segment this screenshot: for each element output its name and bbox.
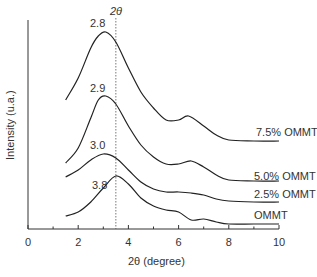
x-tick-labels: 0246810 [25, 236, 285, 248]
series-label-5.0: 5.0% OMMT [254, 170, 316, 182]
x-tick-label: 8 [226, 236, 232, 248]
x-tick-label: 0 [25, 236, 31, 248]
series-label-ommt: OMMT [254, 209, 288, 221]
x-tick-label: 4 [125, 236, 131, 248]
peak-label-ommt: 3.8 [92, 179, 107, 191]
peak-label-2.5: 3.0 [90, 139, 105, 151]
x-ticks [28, 225, 279, 229]
x-tick-label: 10 [273, 236, 285, 248]
reference-line-label: 2θ [109, 5, 122, 17]
peak-label-5.0: 2.9 [90, 82, 105, 94]
x-axis-title: 2θ (degree) [128, 255, 185, 267]
y-axis-title: Intensity (u.a.) [4, 90, 16, 160]
series-label-7.5: 7.5% OMMT [256, 126, 317, 138]
xrd-chart: 0246810 2θ 2.8 2.9 3.0 3.8 7.5% OMMT 5.0… [0, 0, 317, 277]
x-tick-label: 6 [176, 236, 182, 248]
series-curves [66, 32, 279, 224]
series-label-2.5: 2.5% OMMT [254, 188, 316, 200]
x-tick-label: 2 [75, 236, 81, 248]
peak-label-7.5: 2.8 [90, 17, 105, 29]
